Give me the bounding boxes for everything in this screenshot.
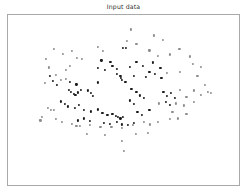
scatter-plot-figure: Input data — [0, 0, 247, 195]
scatter-point — [206, 91, 208, 93]
scatter-point — [99, 125, 101, 127]
scatter-point — [189, 55, 191, 57]
scatter-point — [169, 104, 171, 106]
scatter-point — [133, 75, 135, 77]
scatter-point — [129, 99, 131, 101]
scatter-point — [121, 140, 123, 142]
scatter-point — [174, 97, 176, 99]
scatter-point — [157, 121, 159, 123]
scatter-point — [60, 121, 62, 123]
scatter-point — [103, 122, 105, 124]
scatter-point — [148, 108, 150, 110]
scatter-point — [101, 112, 103, 114]
scatter-point — [142, 65, 144, 67]
scatter-point — [89, 120, 91, 122]
scatter-point — [69, 65, 71, 67]
scatter-point — [115, 73, 117, 75]
scatter-point — [196, 75, 198, 77]
scatter-point — [170, 92, 172, 94]
scatter-point — [175, 102, 177, 104]
scatter-point — [121, 79, 123, 81]
scatter-point — [177, 117, 179, 119]
scatter-point — [111, 65, 113, 67]
scatter-point — [53, 48, 55, 50]
scatter-point — [89, 124, 91, 126]
scatter-point — [132, 124, 134, 126]
scatter-point — [165, 101, 167, 103]
axes-frame — [7, 14, 240, 186]
scatter-point — [44, 82, 46, 84]
scatter-point — [200, 66, 202, 68]
scatter-point — [104, 68, 106, 70]
scatter-point — [81, 58, 83, 60]
scatter-point — [171, 110, 173, 112]
scatter-point — [152, 61, 154, 63]
scatter-point — [130, 28, 132, 30]
scatter-point — [90, 92, 92, 94]
scatter-point — [145, 76, 147, 78]
scatter-point — [122, 150, 124, 152]
scatter-point — [69, 81, 71, 83]
scatter-point — [124, 81, 126, 83]
scatter-point — [65, 78, 67, 80]
scatter-point — [162, 91, 164, 93]
scatter-point — [179, 71, 181, 73]
scatter-point — [102, 50, 104, 52]
scatter-point — [75, 83, 77, 85]
scatter-point — [80, 89, 82, 91]
scatter-point — [71, 50, 73, 52]
scatter-point — [77, 91, 79, 93]
scatter-point — [71, 123, 73, 125]
scatter-point — [185, 96, 187, 98]
scatter-point — [52, 109, 54, 111]
scatter-point — [83, 117, 85, 119]
scatter-point — [65, 69, 67, 71]
scatter-point — [133, 103, 135, 105]
scatter-point — [83, 109, 85, 111]
scatter-point — [210, 92, 212, 94]
scatter-point — [48, 66, 50, 68]
scatter-point — [125, 47, 127, 49]
scatter-point — [97, 46, 99, 48]
scatter-point — [78, 104, 80, 106]
scatter-point — [97, 67, 99, 69]
scatter-point — [74, 94, 76, 96]
scatter-point — [76, 57, 78, 59]
scatter-point — [160, 77, 162, 79]
scatter-point — [178, 48, 180, 50]
scatter-point — [166, 95, 168, 97]
scatter-point — [193, 89, 195, 91]
scatter-point — [139, 94, 141, 96]
scatter-point — [185, 113, 187, 115]
scatter-point — [182, 104, 184, 106]
scatter-point — [121, 123, 123, 125]
scatter-point — [100, 59, 102, 61]
scatter-point — [179, 89, 181, 91]
scatter-point — [56, 84, 58, 86]
scatter-point — [64, 103, 66, 105]
scatter-point — [67, 105, 69, 107]
scatter-point — [115, 68, 117, 70]
scatter-point — [79, 125, 81, 127]
scatter-point — [55, 74, 57, 76]
scatter-point — [134, 133, 136, 135]
scatter-point — [158, 102, 160, 104]
scatter-point — [85, 133, 87, 135]
scatter-point — [166, 72, 168, 74]
scatter-point — [135, 91, 137, 93]
scatter-point — [75, 124, 77, 126]
scatter-point — [116, 121, 118, 123]
scatter-point — [146, 132, 148, 134]
scatter-point — [192, 63, 194, 65]
scatter-point — [104, 134, 106, 136]
scatter-point — [143, 97, 145, 99]
scatter-point — [77, 119, 79, 121]
scatter-point — [169, 53, 171, 55]
scatter-point — [119, 117, 121, 119]
scatter-point — [47, 107, 49, 109]
scatter-point — [127, 124, 129, 126]
scatter-point — [130, 88, 132, 90]
scatter-point — [106, 114, 108, 116]
scatter-point — [121, 127, 123, 129]
scatter-point — [204, 84, 206, 86]
